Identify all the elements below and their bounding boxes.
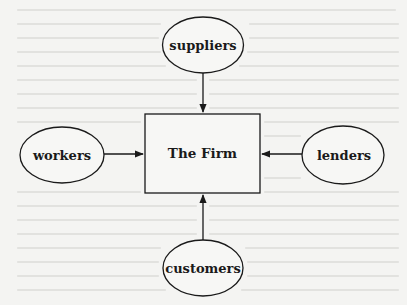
node-customers: customers xyxy=(163,240,243,296)
customers-label: customers xyxy=(165,261,241,276)
diagram-canvas: suppliers The Firm workers lenders custo… xyxy=(0,0,407,305)
node-suppliers: suppliers xyxy=(163,17,244,73)
firm-diagram: suppliers The Firm workers lenders custo… xyxy=(0,0,407,305)
lenders-label: lenders xyxy=(317,148,371,163)
firm-label: The Firm xyxy=(168,145,237,161)
node-the-firm: The Firm xyxy=(145,114,260,193)
node-lenders: lenders xyxy=(302,126,384,184)
suppliers-label: suppliers xyxy=(169,38,236,53)
workers-label: workers xyxy=(32,148,91,163)
node-workers: workers xyxy=(20,127,104,183)
